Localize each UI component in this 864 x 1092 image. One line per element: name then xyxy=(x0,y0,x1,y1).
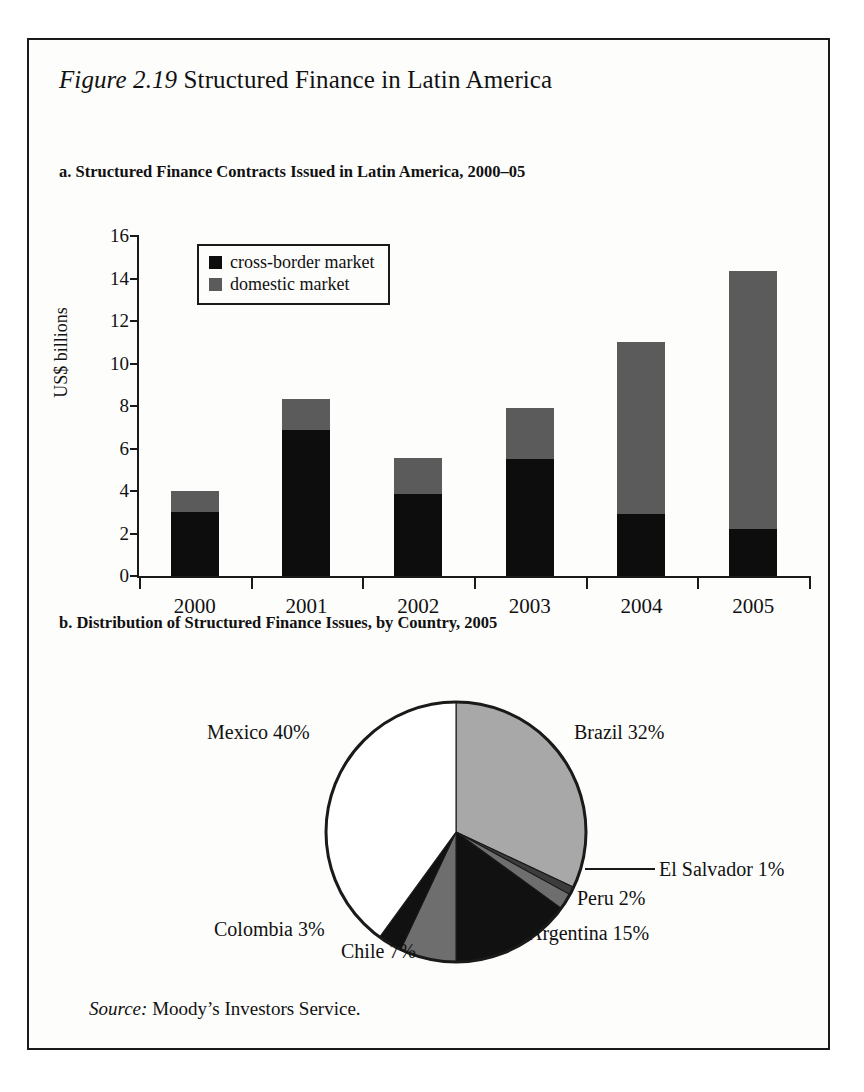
pie-label-argentina: Argentina 15% xyxy=(528,922,649,945)
legend-label: cross-border market xyxy=(230,252,374,274)
pie-label-mexico: Mexico 40% xyxy=(207,721,310,744)
figure-frame: Figure 2.19 Structured Finance in Latin … xyxy=(27,38,830,1050)
bar-chart: US$ billions 0246810121416 2000200120022… xyxy=(29,190,829,600)
bar-segment-domestic xyxy=(394,458,442,494)
x-tick-mark xyxy=(697,576,699,589)
x-tick-mark xyxy=(474,576,476,589)
y-tick-label: 0 xyxy=(95,565,129,587)
pie-svg xyxy=(29,640,832,1010)
panel-b-title: b. Distribution of Structured Finance Is… xyxy=(59,613,497,633)
pie-chart: Mexico 40% Brazil 32% El Salvador 1% Per… xyxy=(29,640,832,1010)
y-tick-label: 6 xyxy=(95,438,129,460)
bar-stack[interactable] xyxy=(282,399,330,576)
bar-group xyxy=(474,236,586,576)
bar-segment-cross-border xyxy=(282,430,330,576)
panel-a-title: a. Structured Finance Contracts Issued i… xyxy=(59,162,525,182)
bar-stack[interactable] xyxy=(394,458,442,576)
bar-stack[interactable] xyxy=(171,491,219,576)
bar-segment-domestic xyxy=(729,271,777,529)
bar-stack[interactable] xyxy=(506,408,554,576)
x-tick-mark xyxy=(809,576,811,589)
pie-label-peru: Peru 2% xyxy=(577,887,645,910)
x-tick-mark xyxy=(251,576,253,589)
bar-segment-domestic xyxy=(617,342,665,514)
x-axis-line xyxy=(137,576,809,578)
figure-number: Figure 2.19 xyxy=(59,66,177,93)
bar-segment-cross-border xyxy=(729,529,777,576)
y-tick-label: 10 xyxy=(95,353,129,375)
source-label: Source: xyxy=(89,998,147,1019)
x-tick-mark xyxy=(586,576,588,589)
y-axis-title: US$ billions xyxy=(51,273,72,433)
pie-label-el-salvador: El Salvador 1% xyxy=(659,858,785,881)
y-tick-label: 8 xyxy=(95,395,129,417)
y-tick-label: 12 xyxy=(95,310,129,332)
y-axis-tick-labels: 0246810121416 xyxy=(95,190,129,600)
bar-segment-domestic xyxy=(506,408,554,459)
x-tick-mark xyxy=(362,576,364,589)
figure-title-text: Structured Finance in Latin America xyxy=(184,66,553,93)
x-tick-label: 2005 xyxy=(732,594,774,619)
y-tick-label: 16 xyxy=(95,225,129,247)
bar-chart-legend: cross-border marketdomestic market xyxy=(197,244,390,305)
legend-item: domestic market xyxy=(209,274,374,296)
bar-segment-cross-border xyxy=(394,494,442,576)
figure-title: Figure 2.19 Structured Finance in Latin … xyxy=(59,66,552,94)
source-line: Source: Moody’s Investors Service. xyxy=(89,998,361,1020)
pie-label-brazil: Brazil 32% xyxy=(574,721,665,744)
bar-segment-cross-border xyxy=(171,512,219,576)
legend-swatch-icon xyxy=(209,256,222,269)
y-tick-label: 14 xyxy=(95,268,129,290)
bar-segment-domestic xyxy=(282,399,330,431)
y-tick-label: 4 xyxy=(95,480,129,502)
pie-label-colombia: Colombia 3% xyxy=(214,918,325,941)
x-tick-label: 2004 xyxy=(621,594,663,619)
bar-group xyxy=(586,236,698,576)
bar-group xyxy=(697,236,809,576)
legend-swatch-icon xyxy=(209,278,222,291)
x-tick-mark xyxy=(139,576,141,589)
bar-segment-cross-border xyxy=(506,459,554,576)
legend-label: domestic market xyxy=(230,274,349,296)
y-tick-label: 2 xyxy=(95,523,129,545)
pie-label-chile: Chile 7% xyxy=(341,940,416,963)
legend-item: cross-border market xyxy=(209,252,374,274)
bar-stack[interactable] xyxy=(617,342,665,576)
bar-stack[interactable] xyxy=(729,271,777,576)
bar-segment-cross-border xyxy=(617,514,665,576)
bar-segment-domestic xyxy=(171,491,219,512)
source-text: Moody’s Investors Service. xyxy=(152,998,360,1019)
x-tick-label: 2003 xyxy=(509,594,551,619)
